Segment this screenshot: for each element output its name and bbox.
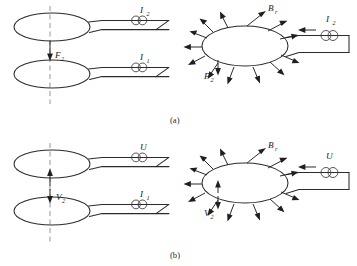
current-direction-arrow [298,27,316,33]
upper-loop-current-symbol: I [139,5,144,15]
radial-arrow [281,55,300,63]
upper-loop-current-subscript: 2 [147,10,150,17]
field-label: B r [268,140,278,152]
force-subscript: 2 [211,76,214,83]
current-label: I 2 [325,14,336,26]
upper-loop-voltage-symbol: U [140,142,148,152]
radial-arrow [253,67,260,84]
radial-arrow [253,204,260,221]
force-arrow-down [47,41,53,61]
field-symbol: B [268,3,274,13]
force-symbol: F [54,50,61,60]
lower-loop-current-symbol: I [139,52,144,62]
panel-b-left-diagram: U I 1 V 2 [14,142,169,242]
feed-line-lower [286,190,349,194]
loop-ellipse-body [202,26,288,66]
loop-ellipse-body [202,163,288,203]
radial-field-arrows [184,11,300,85]
radial-arrow [268,158,288,168]
radial-arrow [200,156,214,170]
panel-b-right-diagram: U B r [184,140,350,222]
radial-arrow [227,67,234,85]
radial-arrow [190,30,208,38]
radial-field-arrows [184,148,300,222]
lower-loop-current-subscript: 1 [147,194,150,201]
lower-loop-current-subscript: 1 [147,57,150,64]
upper-loop-current-label: I 2 [139,5,150,17]
repulsion-arrow-up [47,169,53,187]
lower-loop-shape [14,197,169,225]
field-subscript: r [275,8,278,15]
lower-loop-current-label: I 1 [139,189,150,201]
upper-loop-shape [14,13,169,41]
velocity-subscript: 2 [62,197,65,204]
field-symbol: B [268,140,274,150]
caption-a: (a) [170,115,180,125]
lower-loop-current-label: I 1 [139,52,150,64]
feed-line-lower [286,53,349,57]
radial-arrow [281,192,300,200]
radial-arrow [188,56,205,65]
repulsion-arrow-down [47,189,53,204]
radial-arrow [220,149,228,166]
current-symbol: I [325,14,330,24]
radial-arrow [184,181,203,187]
radial-arrow [227,204,234,222]
field-subscript: r [275,145,278,152]
repulsion-arrow-up [215,180,221,193]
velocity-label: V 2 [56,192,65,204]
caption-b: (b) [170,250,180,260]
radial-arrow [220,12,228,29]
radial-arrow [270,62,285,75]
radial-arrow [270,199,285,212]
velocity-subscript: 2 [211,213,214,220]
radial-arrow [190,167,208,175]
velocity-label: V 2 [204,208,214,220]
voltage-label: U [326,151,334,161]
panel-a-left-diagram: I 2 I 1 F 2 [14,5,169,104]
radial-arrow-br [247,148,266,163]
voltage-symbol: U [326,151,334,161]
force-subscript: 2 [61,55,64,62]
radial-arrow [200,19,214,33]
radial-arrow [184,44,203,50]
lower-loop-shape [14,60,169,88]
lower-loop-current-symbol: I [139,189,144,199]
current-subscript: 2 [333,19,336,26]
figure-root: I 2 I 1 F 2 [0,0,357,266]
radial-arrow [188,193,205,202]
current-direction-arrow [298,164,316,170]
field-label: B r [268,3,278,15]
force-symbol: F [203,71,210,81]
radial-arrow-br [247,11,266,26]
upper-loop-shape [14,150,169,178]
radial-arrow [268,21,288,31]
upper-loop-voltage-label: U [140,142,148,152]
panel-a-right-diagram: I 2 B r [184,3,350,85]
